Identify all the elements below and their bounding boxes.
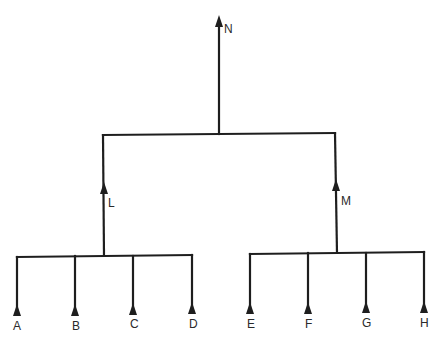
root-branch: N [215,15,233,134]
arrowhead-up-icon [304,302,312,314]
arrowhead-up-icon [100,182,108,194]
leaf-e: E [246,254,255,331]
branch-l: L [100,135,115,256]
arrowhead-up-icon [215,15,223,27]
arrowhead-up-icon [71,304,79,316]
leaf-h: H [420,252,429,330]
leaf-label-e: E [247,317,255,331]
arrowhead-up-icon [188,302,196,314]
arrowhead-up-icon [362,301,370,313]
leaf-label-d: D [189,317,198,331]
branch-m: M [332,133,351,253]
leaf-label-b: B [72,319,80,333]
leaf-b: B [71,256,80,333]
arrowhead-up-icon [420,301,428,313]
node-label-l: L [108,196,115,210]
tree-diagram: N L M A B C D E [0,0,439,343]
leaf-c: C [129,256,139,331]
leaf-a: A [13,257,21,333]
leaf-g: G [362,253,371,330]
top-connector [103,133,335,135]
arrowhead-up-icon [332,179,340,191]
right-group-connector [250,252,424,254]
node-label-m: M [341,194,351,208]
arrowhead-up-icon [129,303,137,315]
leaf-label-a: A [13,319,21,333]
leaf-d: D [188,255,198,331]
leaf-label-h: H [420,316,429,330]
node-label-n: N [224,22,233,36]
leaf-label-c: C [130,317,139,331]
leaf-label-f: F [305,317,312,331]
l-stem [103,135,104,256]
arrowhead-up-icon [13,304,21,316]
leaf-f: F [304,253,312,331]
arrowhead-up-icon [246,302,254,314]
m-stem [335,133,337,253]
left-group-connector [17,255,192,257]
leaf-label-g: G [362,316,371,330]
